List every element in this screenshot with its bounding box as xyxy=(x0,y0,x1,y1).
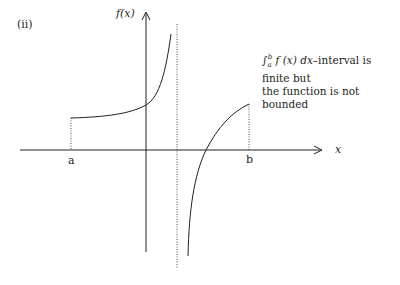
integrand: f (x) dx xyxy=(276,54,313,66)
annotation-line-1: ∫ab f (x) dx–interval is finite but xyxy=(262,51,400,85)
y-axis-label: f(x) xyxy=(116,8,135,20)
curve-left-branch xyxy=(71,34,171,118)
point-b-label: b xyxy=(246,154,253,166)
point-a-label: a xyxy=(68,155,75,167)
panel-label: (ii) xyxy=(17,19,33,31)
integral-sign: ∫ab xyxy=(262,54,272,66)
annotation-text: ∫ab f (x) dx–interval is finite but the … xyxy=(262,51,400,111)
curve-right-branch xyxy=(188,104,249,256)
x-axis-label: x xyxy=(335,144,341,156)
annotation-line-2: the function is not bounded xyxy=(262,85,400,111)
